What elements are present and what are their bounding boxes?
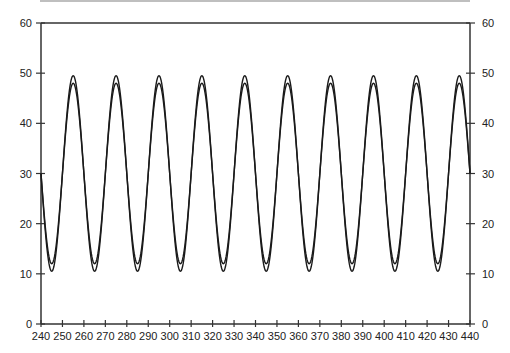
x-tick-label: 400	[375, 330, 393, 342]
y-tick-label-left: 40	[20, 117, 32, 129]
x-tick-label: 250	[53, 330, 71, 342]
y-tick-label-left: 20	[20, 218, 32, 230]
x-tick-label: 420	[418, 330, 436, 342]
axes: 0102030405060010203040506024025026027028…	[20, 17, 495, 342]
x-tick-label: 270	[96, 330, 114, 342]
x-tick-label: 320	[203, 330, 221, 342]
y-tick-label-left: 50	[20, 67, 32, 79]
y-tick-label-left: 0	[26, 318, 32, 330]
x-tick-label: 360	[289, 330, 307, 342]
x-tick-label: 330	[225, 330, 243, 342]
x-tick-label: 370	[311, 330, 329, 342]
sinusoid-chart: 0102030405060010203040506024025026027028…	[0, 0, 510, 353]
y-tick-label-left: 60	[20, 17, 32, 29]
x-tick-label: 300	[161, 330, 179, 342]
y-tick-label-left: 30	[20, 168, 32, 180]
x-tick-label: 430	[439, 330, 457, 342]
y-tick-label-right: 30	[482, 168, 494, 180]
y-tick-label-right: 20	[482, 218, 494, 230]
y-tick-label-right: 50	[482, 67, 494, 79]
y-tick-label-right: 10	[482, 268, 494, 280]
x-tick-label: 380	[332, 330, 350, 342]
series-lines	[41, 76, 470, 272]
x-tick-label: 440	[461, 330, 479, 342]
y-tick-label-right: 0	[482, 318, 488, 330]
x-tick-label: 260	[75, 330, 93, 342]
x-tick-label: 290	[139, 330, 157, 342]
y-tick-label-right: 40	[482, 117, 494, 129]
x-tick-label: 350	[268, 330, 286, 342]
x-tick-label: 390	[354, 330, 372, 342]
y-tick-label-left: 10	[20, 268, 32, 280]
x-tick-label: 410	[396, 330, 414, 342]
x-tick-label: 340	[246, 330, 264, 342]
series-line-inner	[41, 83, 470, 264]
x-tick-label: 240	[32, 330, 50, 342]
y-tick-label-right: 60	[482, 17, 494, 29]
x-tick-label: 310	[182, 330, 200, 342]
x-tick-label: 280	[118, 330, 136, 342]
